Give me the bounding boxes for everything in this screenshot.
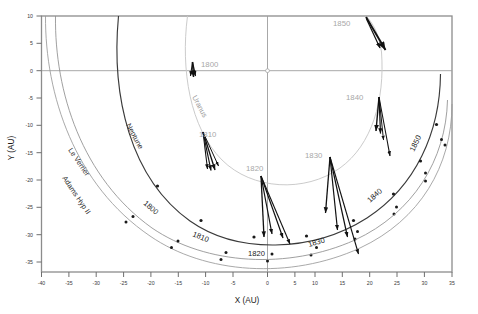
x-tick--10: -10 <box>202 280 210 286</box>
y-tick--15: -15 <box>26 150 34 156</box>
arrow-bundle-1850 <box>366 17 386 50</box>
uranus-year-1800: 1800 <box>201 60 219 69</box>
x-axis-ticks: -40 -35 -30 -25 -20 -15 -10 -5 0 5 10 15… <box>38 272 455 286</box>
neptune-year-1850: 1850 <box>408 134 424 153</box>
x-tick-5: 5 <box>293 280 296 286</box>
y-tick-10: 10 <box>27 13 33 19</box>
x-tick--30: -30 <box>92 280 100 286</box>
x-tick-10: 10 <box>312 280 318 286</box>
y-axis-title: Y (AU) <box>7 136 16 161</box>
y-tick--10: -10 <box>26 122 34 128</box>
arrow-bundle-1820 <box>261 176 290 244</box>
neptune-year-1830: 1830 <box>307 236 326 249</box>
neptune-year-1800: 1800 <box>142 199 161 217</box>
y-tick--5: -5 <box>28 95 33 101</box>
x-tick-30: 30 <box>422 280 428 286</box>
x-tick-15: 15 <box>339 280 345 286</box>
plot-canvas: Le Verrier Adams Hyp II Neptune Uranus 1… <box>0 0 478 314</box>
x-tick-35: 35 <box>449 280 455 286</box>
x-tick--5: -5 <box>231 280 236 286</box>
x-tick--25: -25 <box>120 280 128 286</box>
x-tick-25: 25 <box>394 280 400 286</box>
uranus-year-1850: 1850 <box>333 19 351 28</box>
arrow-bundle-1840 <box>376 97 390 156</box>
x-tick--15: -15 <box>175 280 183 286</box>
x-tick-20: 20 <box>367 280 373 286</box>
arrow-bundle-1830 <box>326 157 359 254</box>
orbit-adams-hyp-ii <box>45 16 452 269</box>
y-tick--25: -25 <box>26 204 34 210</box>
y-tick--20: -20 <box>26 177 34 183</box>
y-tick--35: -35 <box>26 259 34 265</box>
orbit-label-le-verrier: Le Verrier <box>66 146 92 178</box>
uranus-year-1810: 1810 <box>199 130 217 139</box>
uranus-year-1830: 1830 <box>305 151 323 160</box>
x-axis-title: X (AU) <box>235 296 260 305</box>
orbit-le-verrier <box>55 16 447 260</box>
origin-axes <box>42 16 453 272</box>
x-tick--40: -40 <box>38 280 46 286</box>
x-tick--20: -20 <box>147 280 155 286</box>
orbit-label-neptune: Neptune <box>124 122 145 151</box>
neptune-year-1820: 1820 <box>248 249 265 258</box>
orbit-diagram-figure: Le Verrier Adams Hyp II Neptune Uranus 1… <box>0 0 478 314</box>
y-axis-ticks: 10 5 0 -5 -10 -15 -20 -25 -30 -35 <box>26 13 42 265</box>
y-tick--30: -30 <box>26 232 34 238</box>
arrow-bundle-1800 <box>191 62 196 77</box>
y-tick-0: 0 <box>30 68 33 74</box>
uranus-year-1840: 1840 <box>346 93 364 102</box>
neptune-year-1840: 1840 <box>365 186 384 204</box>
uranus-year-1820: 1820 <box>246 164 264 173</box>
y-tick-5: 5 <box>30 40 33 46</box>
orbit-label-adams: Adams Hyp II <box>60 174 92 216</box>
plot-frame <box>42 16 453 272</box>
orbit-neptune <box>117 16 441 245</box>
x-tick--35: -35 <box>65 280 73 286</box>
x-tick-0: 0 <box>266 280 269 286</box>
